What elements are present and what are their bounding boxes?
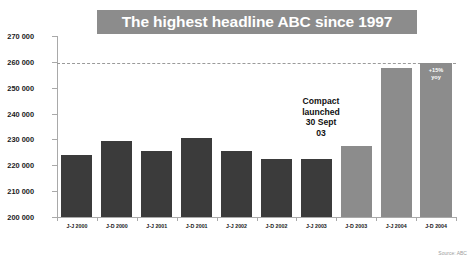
chart-title-banner: The highest headline ABC since 1997: [97, 10, 417, 34]
y-axis-tick-label: 260 000: [0, 57, 34, 66]
bar: [301, 159, 332, 217]
y-axis-tick-label: 250 000: [0, 83, 34, 92]
bar-value-label: +15% yoy: [420, 67, 451, 81]
x-axis-tick: [177, 217, 178, 221]
bar-chart: The highest headline ABC since 1997 200 …: [0, 0, 475, 263]
y-axis-tick-label: 270 000: [0, 32, 34, 41]
x-axis-tick: [137, 217, 138, 221]
bar: [221, 151, 252, 217]
reference-line: [57, 63, 456, 64]
x-axis-tick-label: J-J 2004: [386, 223, 407, 229]
x-axis-tick: [336, 217, 337, 221]
x-axis-tick-label: J-J 2002: [226, 223, 247, 229]
x-axis-tick: [376, 217, 377, 221]
bar: [381, 68, 412, 217]
y-axis-tick: [52, 36, 57, 37]
bar: [341, 146, 372, 217]
x-axis-tick: [217, 217, 218, 221]
y-axis-tick: [52, 139, 57, 140]
bar: [261, 159, 292, 217]
x-axis-tick: [416, 217, 417, 221]
x-axis-tick: [257, 217, 258, 221]
x-axis-tick: [296, 217, 297, 221]
source-note: Source: ABC: [438, 250, 467, 256]
y-axis-tick: [52, 165, 57, 166]
bar: +15% yoy: [420, 63, 451, 217]
bar: [141, 151, 172, 217]
page-title: The highest headline ABC since 1997: [122, 13, 393, 31]
x-axis-tick-label: J-D 2004: [425, 223, 447, 229]
x-axis-tick-label: J-D 2001: [186, 223, 208, 229]
y-axis-tick-label: 200 000: [0, 213, 34, 222]
x-axis-tick-label: J-D 2003: [345, 223, 367, 229]
bar: [101, 141, 132, 217]
y-axis-tick: [52, 191, 57, 192]
y-axis-tick-label: 210 000: [0, 187, 34, 196]
y-axis-tick: [52, 114, 57, 115]
x-axis-tick: [97, 217, 98, 221]
y-axis-tick: [52, 88, 57, 89]
x-axis-tick: [57, 217, 58, 221]
bar: [61, 155, 92, 217]
x-axis-tick-label: J-D 2002: [266, 223, 288, 229]
x-axis-tick-label: J-J 2000: [66, 223, 87, 229]
y-axis-tick-label: 240 000: [0, 109, 34, 118]
plot-area: 200 000210 000220 000230 000240 000250 0…: [57, 36, 456, 217]
x-axis-tick-label: J-J 2001: [146, 223, 167, 229]
x-axis-tick-label: J-D 2000: [106, 223, 128, 229]
y-axis-tick-label: 230 000: [0, 135, 34, 144]
compact-launch-annotation: Compact launched 30 Sept 03: [285, 96, 357, 138]
y-axis-tick-label: 220 000: [0, 161, 34, 170]
bar: [181, 138, 212, 217]
x-axis-tick-label: J-J 2003: [306, 223, 327, 229]
x-axis-tick: [456, 217, 457, 221]
